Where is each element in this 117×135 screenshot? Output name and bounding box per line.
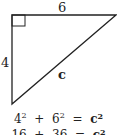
eq1-exp-c: 2 bbox=[97, 111, 103, 121]
side-top-label: 6 bbox=[58, 1, 66, 14]
eq2-term-c: c bbox=[93, 128, 100, 135]
eq1-term-b: 6 bbox=[52, 112, 60, 126]
equation-line-1: 42 + 62 = c2 bbox=[0, 113, 117, 125]
eq1-equals: = bbox=[72, 112, 82, 126]
eq1-plus: + bbox=[34, 112, 44, 126]
eq2-exp-c: 2 bbox=[100, 127, 106, 135]
eq1-term-a: 4 bbox=[14, 112, 22, 126]
eq2-plus: + bbox=[34, 128, 44, 135]
eq1-exp-b: 2 bbox=[60, 111, 65, 120]
eq2-term-a: 16 bbox=[11, 128, 26, 135]
triangle-shape bbox=[12, 15, 116, 104]
eq2-term-b: 36 bbox=[52, 128, 67, 135]
eq1-exp-a: 2 bbox=[22, 111, 27, 120]
hypotenuse-label: c bbox=[58, 68, 66, 81]
equation-line-2: 16 + 36 = c2 bbox=[0, 129, 117, 135]
eq2-equals: = bbox=[75, 128, 85, 135]
side-left-label: 4 bbox=[1, 56, 9, 69]
right-angle-marker bbox=[12, 15, 25, 26]
